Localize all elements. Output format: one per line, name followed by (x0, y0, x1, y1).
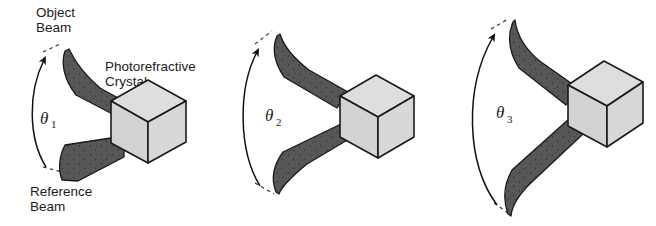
object-beam-label-line1: Object (36, 5, 75, 20)
angle-symbol-1: θ (40, 109, 48, 128)
reference-beam-label-line2: Beam (30, 199, 65, 214)
angle-subscript-3: 3 (507, 113, 513, 125)
figure-background (0, 0, 656, 226)
angle-subscript-2: 2 (276, 116, 282, 128)
crystal-label-line1: Photorefractive (105, 59, 196, 74)
angle-subscript-1: 1 (51, 118, 57, 130)
photorefractive-crystal-figure: Object Beam Photorefractive Crystal Refe… (0, 0, 656, 226)
angle-symbol-2: θ (265, 106, 273, 125)
reference-beam-label-line1: Reference (30, 184, 92, 199)
angle-symbol-3: θ (496, 103, 504, 122)
object-beam-label-line2: Beam (36, 20, 71, 35)
